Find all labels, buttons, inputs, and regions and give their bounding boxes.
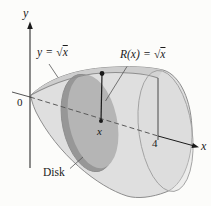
- curve-equation-equals: =: [45, 46, 54, 58]
- x-axis-label: x: [201, 140, 206, 152]
- solid-of-revolution-figure: y y = √x R(x) = √x 0 x 4 x Disk: [0, 0, 211, 206]
- curve-equation-radicand: x: [63, 46, 68, 58]
- radius-top-dot: [100, 71, 105, 76]
- curve-equation-lhs: y: [37, 46, 42, 58]
- diagram-canvas: [0, 0, 211, 206]
- radius-equation-label: R(x) = √x: [120, 49, 165, 61]
- sample-point-label: x: [97, 126, 102, 137]
- radius-equation-radicand: x: [160, 48, 165, 60]
- center-dot: [99, 119, 103, 123]
- y-axis-arrow-icon: [27, 22, 33, 30]
- radius-equation-lhs: R(x): [120, 48, 140, 60]
- x-tick-label: 4: [152, 138, 158, 149]
- origin-label: 0: [17, 97, 23, 108]
- curve-equation-label: y = √x: [37, 47, 68, 59]
- y-axis-label: y: [23, 7, 28, 19]
- radius-equation-equals: =: [143, 48, 152, 60]
- curve-label-leader: [49, 64, 58, 78]
- disk-label: Disk: [43, 167, 65, 179]
